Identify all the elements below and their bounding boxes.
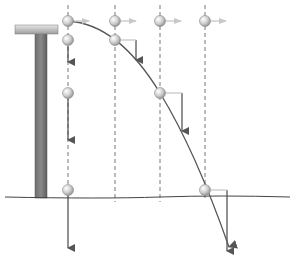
ball-icon	[110, 35, 121, 46]
projectile-diagram	[0, 0, 293, 255]
diagram-canvas	[0, 0, 293, 255]
platform-post	[35, 33, 47, 198]
ball-icon	[110, 16, 121, 27]
launch-platform	[15, 25, 58, 198]
ball-icon	[63, 88, 74, 99]
dashed-guides	[68, 5, 205, 202]
ball-icon	[63, 16, 74, 27]
ball-icon	[63, 185, 74, 196]
ground-line	[5, 196, 290, 198]
horizontal-velocity-arrows	[74, 21, 227, 190]
ball-icon	[200, 16, 211, 27]
ball-icon	[155, 16, 166, 27]
vertical-velocity-arrows	[68, 40, 227, 251]
ball-icon	[200, 185, 211, 196]
ball-icon	[155, 88, 166, 99]
platform-top	[15, 25, 58, 34]
ball-icon	[63, 35, 74, 46]
